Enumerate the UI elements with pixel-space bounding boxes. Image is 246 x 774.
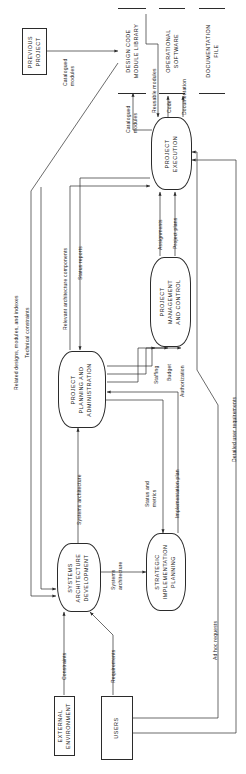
diagram-canvas: PREVIOUS PROJECT EXTERNAL ENVIRONMENT US… xyxy=(0,0,246,774)
external-environment-label: EXTERNAL ENVIRONMENT xyxy=(57,703,73,749)
flow-label-status-reports: Status reports xyxy=(77,246,84,280)
connector-layer xyxy=(0,0,246,774)
external-entity-external-environment: EXTERNAL ENVIRONMENT xyxy=(54,696,75,756)
documentation-file-label: DOCUMENTATION FILE xyxy=(204,24,220,77)
design-code-module-library-label: DESIGN CODE MODULE LIBRARY xyxy=(124,24,140,79)
process-systems-architecture-development: SYSTEMS ARCHITECTURE DEVELOPMENT xyxy=(57,543,101,612)
process-project-execution: PROJECT EXECUTION xyxy=(151,117,192,190)
flow-label-detailed-user-requirements: Detailed user requirements xyxy=(231,397,238,462)
flow-label-budget: Budget xyxy=(166,364,173,381)
project-planning-and-administration-label: PROJECT PLANNING AND ADMINISTRATION xyxy=(70,363,93,416)
external-entity-users: USERS xyxy=(101,696,133,760)
process-strategic-implementation-planning: STRATEGIC IMPLEMENTATION PLANNING xyxy=(146,533,186,611)
flow-label-constraints: Constraints xyxy=(61,653,68,681)
external-entity-previous-project: PREVIOUS PROJECT xyxy=(22,28,47,75)
flow-label-systems-architecture-1: Systems architecture xyxy=(76,474,83,525)
flow-label-reusable-modules: Reusable modules xyxy=(151,68,158,113)
flow-label-catalogued-modules-2: Catalogued modules xyxy=(125,105,139,133)
flow-label-systems-architecture-2: Systems architecture xyxy=(110,561,124,590)
operational-software-label: OPERATIONAL SOFTWARE xyxy=(164,29,180,72)
flow-label-ad-hoc-requests: Ad hoc requests xyxy=(212,621,219,660)
store-bottom-rule xyxy=(118,93,146,94)
project-execution-label: PROJECT EXECUTION xyxy=(164,135,180,171)
process-project-management-and-control: PROJECT MANAGEMENT AND CONTROL xyxy=(150,257,191,347)
previous-project-label: PREVIOUS PROJECT xyxy=(27,35,43,67)
flow-label-requirements: Requirements xyxy=(110,649,117,683)
flow-label-staffing: Staffing xyxy=(153,366,160,384)
store-bottom-rule xyxy=(199,93,225,94)
flow-label-catalogued-modules-1: Catalogued modules xyxy=(62,58,76,86)
systems-architecture-development-label: SYSTEMS ARCHITECTURE DEVELOPMENT xyxy=(67,553,90,602)
store-top-rule xyxy=(159,8,185,9)
flow-label-authorization: Authorization xyxy=(179,365,186,397)
strategic-implementation-planning-label: STRATEGIC IMPLEMENTATION PLANNING xyxy=(154,545,177,600)
flow-label-relevant-architecture-components: Relevant architecture components xyxy=(62,248,69,330)
store-top-rule xyxy=(118,8,146,9)
project-management-and-control-label: PROJECT MANAGEMENT AND CONTROL xyxy=(159,279,182,324)
store-top-rule xyxy=(199,8,225,9)
data-store-documentation-file: DOCUMENTATION FILE xyxy=(199,8,225,94)
process-project-planning-and-administration: PROJECT PLANNING AND ADMINISTRATION xyxy=(58,351,106,428)
data-store-design-code-module-library: DESIGN CODE MODULE LIBRARY xyxy=(118,8,146,94)
flow-label-code: Code xyxy=(166,100,173,113)
flow-label-project-plans: Project plans xyxy=(172,217,179,249)
flow-label-documentation: Documentation xyxy=(181,79,188,115)
users-label: USERS xyxy=(113,717,121,738)
flow-label-implementation-plan: Implementation plan xyxy=(174,469,181,518)
flow-label-related-designs-modules-and-indexes: Related designs, modules, and indexes xyxy=(13,295,20,390)
flow-label-assignments: Assignments xyxy=(157,219,164,250)
flow-label-status-and-metrics: Status and metrics xyxy=(144,481,157,507)
flow-label-technical-constraints: Technical constraints xyxy=(24,307,31,358)
